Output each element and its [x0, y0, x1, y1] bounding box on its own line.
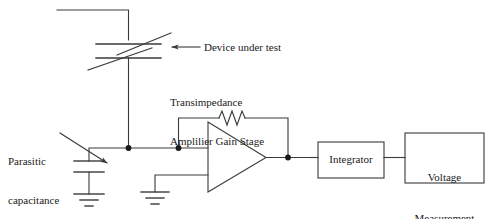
integrator-block-label: Integrator — [318, 153, 384, 167]
label-parasitic-capacitance: Parasitic capacitance — [8, 129, 59, 219]
voltage-measurement-label-line1: Voltage — [405, 171, 484, 185]
junction-dot-summing-node — [126, 145, 132, 151]
junction-dot-output — [285, 155, 291, 161]
label-transimpedance-line2: Amplilier Gain Stage — [170, 135, 264, 148]
label-parasitic-line2: capacitance — [8, 194, 59, 207]
voltage-measurement-block-label: Voltage Measurement — [405, 144, 484, 219]
label-parasitic-line1: Parasitic — [8, 155, 59, 168]
wire-parasitic-branch — [89, 148, 129, 161]
label-transimpedance-amplifier: Transimpedance Amplilier Gain Stage — [170, 70, 264, 174]
wire-top-source — [57, 10, 129, 40]
label-transimpedance-line1: Transimpedance — [170, 96, 264, 109]
voltage-measurement-label-line2: Measurement — [405, 212, 484, 220]
label-device-under-test: Device under test — [204, 41, 281, 54]
dut-variability-stroke-lower — [88, 48, 152, 70]
circuit-diagram-canvas: Device under test Transimpedance Amplili… — [0, 0, 490, 219]
wire-noninverting-to-ground — [155, 175, 208, 192]
